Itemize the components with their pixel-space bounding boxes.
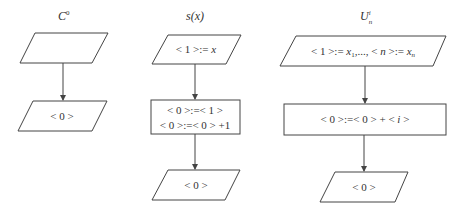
flowchart-u: Uin < 1 >:= x1,..., < n >:= xn < 0 >:=< … (280, 9, 446, 202)
flowchart-s: s(x) < 1 >:= x < 0 >:=< 1 > < 0 >:=< 0 >… (151, 9, 241, 200)
input-node-empty (20, 33, 108, 63)
flowchart-diagram: C0 < 0 > s(x) < 1 >:= x < 0 >:=< 1 > < 0… (0, 0, 462, 216)
flowchart-title-s: s(x) (186, 9, 204, 23)
flowchart-title-u: Uin (360, 9, 373, 26)
output-label: < 0 > (184, 179, 207, 191)
process-line-2: < 0 >:=< 0 > +1 (160, 119, 231, 131)
process-line-1: < 0 >:=< 1 > (167, 104, 223, 116)
output-label: < 0 > (50, 110, 73, 122)
output-label: < 0 > (352, 181, 375, 193)
process-label: < 0 >:=< 0 > + < i > (321, 113, 410, 125)
input-label: < 1 >:= x1,..., < n >:= xn (311, 45, 416, 59)
flowchart-title-c0: C0 (58, 9, 70, 23)
input-label: < 1 >:= x (176, 43, 216, 55)
flowchart-c0: C0 < 0 > (18, 9, 108, 131)
